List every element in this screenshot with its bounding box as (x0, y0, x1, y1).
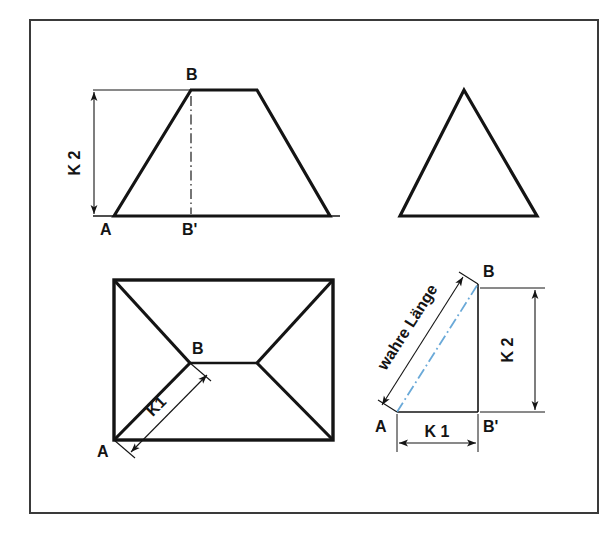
label-dimension-k2-front: K 2 (66, 150, 83, 175)
label-point-a-truelength: A (375, 418, 387, 435)
label-dimension-k1-truelength: K 1 (425, 423, 450, 440)
label-point-b-plan: B (192, 340, 204, 357)
label-point-b-truelength: B (483, 263, 495, 280)
technical-drawing-canvas: B A B' K 2 B (0, 0, 609, 534)
sheet-background (0, 0, 609, 534)
label-point-b-front: B (186, 66, 198, 83)
label-point-b-prime-front: B' (182, 221, 197, 238)
label-point-a-front: A (100, 221, 112, 238)
label-dimension-k2-truelength: K 2 (499, 337, 516, 362)
label-point-b-prime-truelength: B' (483, 418, 498, 435)
label-point-a-plan: A (97, 443, 109, 460)
drawing-sheet: B A B' K 2 B (0, 0, 609, 534)
